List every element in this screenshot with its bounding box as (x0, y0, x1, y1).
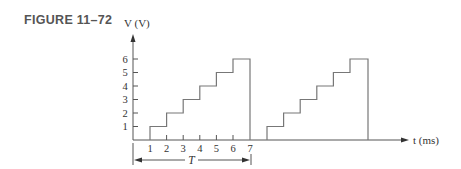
x-tick-label: 1 (147, 143, 152, 154)
waveform-period-2 (267, 59, 368, 140)
x-tick-label: 5 (214, 143, 219, 154)
x-axis-arrow-icon (401, 138, 409, 143)
y-tick-label: 3 (122, 94, 127, 105)
arrow-right-icon (242, 158, 250, 163)
y-tick-label: 4 (122, 81, 128, 92)
x-tick-label: 4 (197, 143, 203, 154)
y-axis-arrow-icon (131, 34, 136, 42)
y-tick-label: 2 (122, 108, 127, 119)
x-ticks (167, 135, 233, 140)
x-tick-label: 2 (164, 143, 169, 154)
x-tick-label: 7 (247, 143, 252, 154)
period-label: T (188, 154, 196, 166)
x-axis-label: t (ms) (413, 134, 439, 147)
arrow-left-icon (134, 158, 142, 163)
staircase-waveform-diagram: V (V) t (ms) 1 2 3 4 5 6 1 2 3 4 5 6 7 (0, 0, 461, 169)
waveform-period-1 (150, 59, 250, 140)
y-tick-label: 6 (122, 54, 127, 65)
y-tick-label: 5 (122, 67, 127, 78)
x-tick-label: 3 (181, 143, 186, 154)
y-ticks (133, 59, 138, 127)
y-tick-label: 1 (122, 121, 127, 132)
y-axis-label: V (V) (124, 17, 150, 30)
x-tick-label: 6 (230, 143, 235, 154)
